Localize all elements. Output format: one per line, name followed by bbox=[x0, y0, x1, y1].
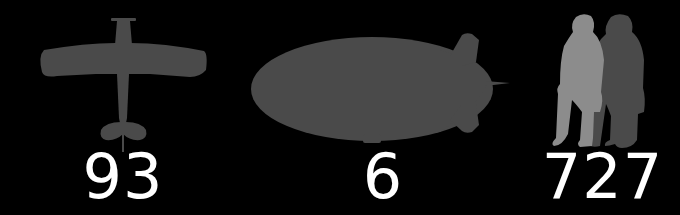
airplane-icon bbox=[0, 0, 240, 160]
airship-count: 6 bbox=[323, 146, 443, 208]
airplane-count: 93 bbox=[63, 146, 183, 208]
people-figure: 727 bbox=[520, 0, 680, 215]
airship-icon bbox=[240, 0, 520, 160]
airplane-figure: 93 bbox=[0, 0, 240, 215]
airship-figure: 6 bbox=[240, 0, 520, 215]
people-icon bbox=[520, 0, 680, 160]
people-count: 727 bbox=[540, 146, 665, 208]
